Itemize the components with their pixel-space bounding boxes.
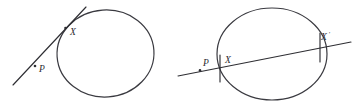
- tangent-line: [13, 7, 86, 85]
- secant-circle: [217, 8, 327, 100]
- secant-point-p-label: P: [202, 58, 209, 68]
- point-p-prime-panel-marker: [199, 69, 202, 72]
- figure-svg: P X P X X ′: [0, 0, 352, 108]
- secant-point-x-prime-mark: ′: [329, 30, 331, 37]
- geometry-figure: P X P X X ′: [0, 0, 352, 108]
- tangent-circle: [54, 7, 157, 101]
- secant-point-x-prime-label: X: [320, 32, 328, 42]
- secant-panel: P X X ′: [178, 8, 351, 100]
- point-p-marker: [34, 65, 37, 68]
- point-p-label: P: [38, 64, 45, 74]
- secant-point-x-label: X: [224, 55, 232, 65]
- tangent-panel: P X: [13, 7, 157, 101]
- point-x-label: X: [69, 27, 77, 37]
- point-x-marker: [64, 27, 67, 30]
